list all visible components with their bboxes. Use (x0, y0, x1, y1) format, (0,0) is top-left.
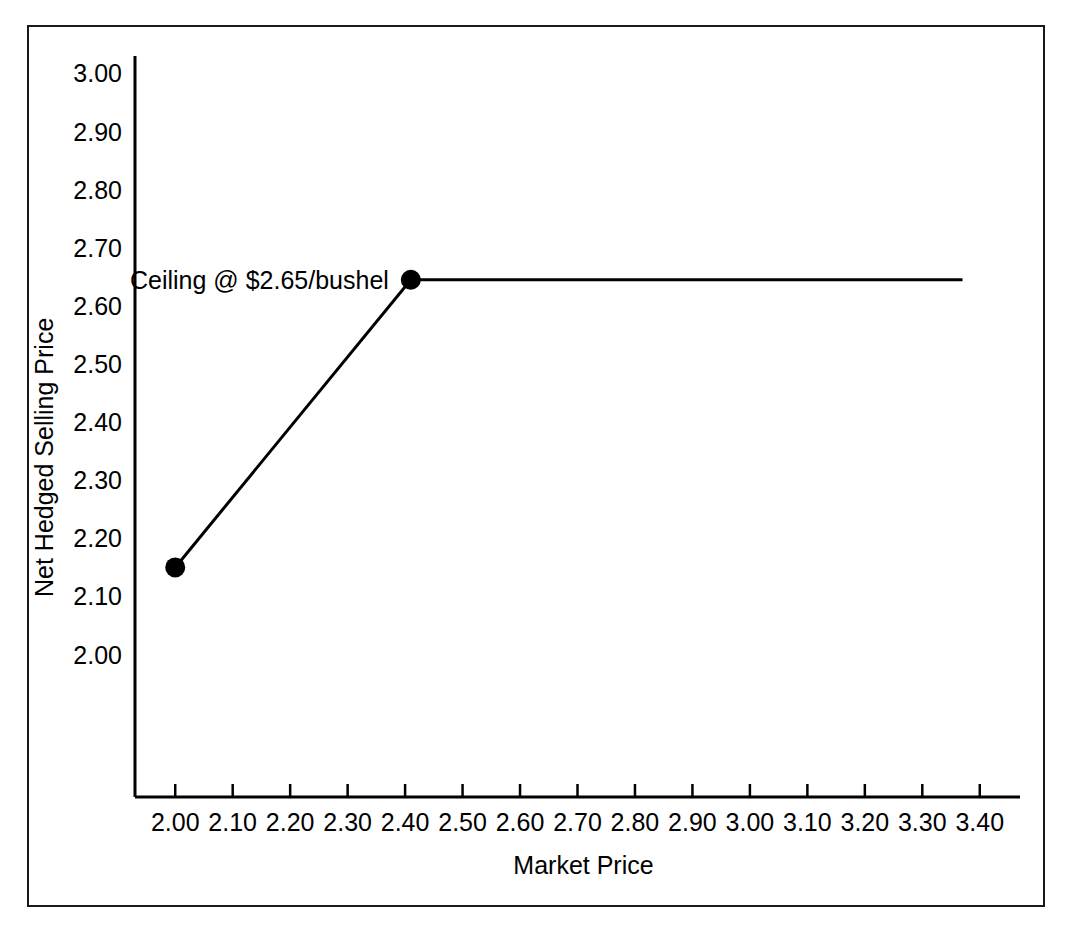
x-axis-tick-label: 3.10 (783, 808, 832, 837)
y-axis-tick-label: 2.90 (40, 117, 122, 146)
y-axis-tick-label: 3.00 (40, 59, 122, 88)
x-axis-tick-label: 2.10 (208, 808, 257, 837)
x-axis-tick-label: 2.50 (438, 808, 487, 837)
data-point-marker (401, 270, 421, 290)
plot-canvas (0, 0, 1065, 928)
x-axis-tick-label: 3.40 (955, 808, 1004, 837)
x-axis-tick-label: 2.70 (553, 808, 602, 837)
y-axis-title: Net Hedged Selling Price (30, 317, 59, 596)
x-axis-tick-label: 2.90 (668, 808, 717, 837)
x-axis-tick-marks (175, 784, 980, 797)
y-axis-tick-label: 2.60 (40, 291, 122, 320)
chart-figure: 2.002.102.202.302.402.502.602.702.802.90… (0, 0, 1065, 928)
x-axis-tick-label: 3.30 (898, 808, 947, 837)
data-point-marker (165, 557, 185, 577)
x-axis-tick-label: 3.20 (840, 808, 889, 837)
y-axis-tick-label: 2.70 (40, 233, 122, 262)
y-axis-tick-label: 2.00 (40, 640, 122, 669)
x-axis-tick-label: 2.60 (496, 808, 545, 837)
x-axis-title: Market Price (513, 851, 653, 880)
x-axis-tick-label: 2.00 (151, 808, 200, 837)
x-axis-tick-label: 2.40 (381, 808, 430, 837)
y-axis-tick-label: 2.80 (40, 175, 122, 204)
ceiling-annotation-label: Ceiling @ $2.65/bushel (130, 265, 389, 294)
x-axis-tick-label: 3.00 (726, 808, 775, 837)
x-axis-tick-label: 2.80 (611, 808, 660, 837)
data-series-line (175, 280, 962, 568)
x-axis-tick-label: 2.20 (266, 808, 315, 837)
x-axis-tick-label: 2.30 (323, 808, 372, 837)
